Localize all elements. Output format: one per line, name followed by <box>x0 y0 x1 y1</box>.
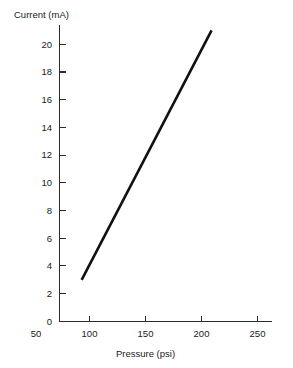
y-tick-label-10: 10 <box>41 177 52 188</box>
line-chart: Current (mA) 20 18 16 14 12 10 8 <box>0 0 293 368</box>
x-tick-label-50: 50 <box>31 328 42 339</box>
y-tick-label-12: 12 <box>41 149 52 160</box>
chart-page: Current (mA) 20 18 16 14 12 10 8 <box>0 0 293 368</box>
x-tick-label-250: 250 <box>250 328 266 339</box>
y-tick-label-4: 4 <box>47 260 52 271</box>
y-tick-label-18: 18 <box>41 66 52 77</box>
y-tick-label-6: 6 <box>47 233 52 244</box>
x-axis-ticks <box>90 316 258 322</box>
y-tick-label-16: 16 <box>41 94 52 105</box>
x-tick-label-100: 100 <box>82 328 98 339</box>
data-series-line <box>82 30 212 279</box>
y-tick-label-14: 14 <box>41 122 52 133</box>
y-axis-title: Current (mA) <box>14 9 69 20</box>
x-tick-label-150: 150 <box>138 328 154 339</box>
y-axis-ticks <box>60 44 66 293</box>
x-tick-label-200: 200 <box>194 328 210 339</box>
y-tick-label-20: 20 <box>41 39 52 50</box>
x-axis-tick-labels: 50 100 150 200 250 <box>31 328 266 339</box>
y-tick-label-2: 2 <box>47 288 52 299</box>
y-tick-label-8: 8 <box>47 205 52 216</box>
x-axis-title: Pressure (psi) <box>116 348 175 359</box>
y-tick-label-0: 0 <box>47 316 52 327</box>
y-axis-tick-labels: 20 18 16 14 12 10 8 6 4 2 0 <box>41 39 52 327</box>
